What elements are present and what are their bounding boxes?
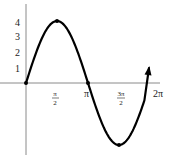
arrow-icon	[145, 66, 152, 75]
data-point	[55, 19, 59, 23]
svg-text:π: π	[53, 90, 57, 98]
y-tick-4: 4	[15, 17, 20, 28]
x-tick-3pi-over-2: 3π 2	[117, 90, 125, 107]
svg-text:2: 2	[119, 99, 123, 107]
data-point	[86, 81, 90, 85]
y-tick-labels: 4 3 2 1	[15, 17, 20, 74]
x-tick-2pi: 2π	[153, 88, 163, 99]
y-tick-2: 2	[15, 47, 20, 58]
x-tick-pi-over-2: π 2	[52, 90, 59, 107]
data-point	[24, 81, 28, 85]
data-point	[117, 143, 121, 147]
svg-text:3π: 3π	[117, 90, 125, 98]
y-tick-1: 1	[15, 63, 20, 74]
sine-chart: 4 3 2 1 π 2 π 3π 2 2π	[0, 0, 174, 155]
svg-text:2: 2	[53, 99, 57, 107]
x-tick-pi: π	[84, 88, 89, 99]
y-tick-3: 3	[15, 31, 20, 42]
